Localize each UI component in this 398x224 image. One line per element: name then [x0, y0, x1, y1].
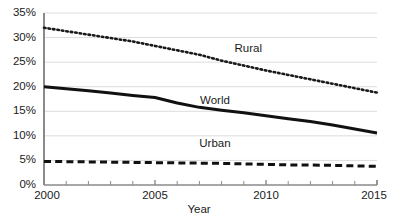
y-tick-label: 5%: [0, 153, 36, 165]
line-chart: 0%5%10%15%20%25%30%35% 2000200520102015 …: [0, 0, 398, 224]
y-tick-label: 25%: [0, 55, 36, 67]
x-tick-label: 2015: [354, 189, 394, 201]
y-tick-label: 15%: [0, 104, 36, 116]
x-tick-marks-group: [44, 180, 377, 185]
series-line-urban: [44, 161, 377, 166]
y-tick-label: 20%: [0, 80, 36, 92]
series-label-world: World: [195, 94, 235, 106]
series-label-rural: Rural: [228, 42, 268, 54]
x-tick-label: 2005: [135, 189, 175, 201]
series-label-urban: Urban: [195, 137, 235, 149]
y-tick-label: 35%: [0, 6, 36, 18]
y-tick-label: 10%: [0, 129, 36, 141]
x-axis-title: Year: [178, 203, 220, 215]
x-tick-label: 2010: [246, 189, 286, 201]
y-tick-label: 30%: [0, 31, 36, 43]
x-tick-label: 2000: [27, 189, 67, 201]
